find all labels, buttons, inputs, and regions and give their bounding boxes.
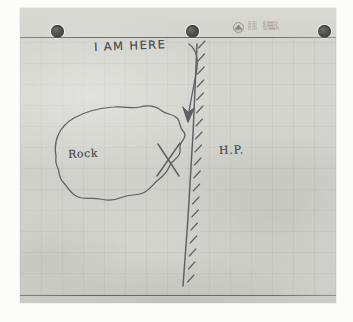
label-i-am-here: I AM HERE [94, 37, 167, 54]
graph-paper-grid [20, 38, 336, 295]
printed-code-column-b: 48 SHEETS 48 SHEETS 100 SHEETS [263, 23, 279, 32]
x-mark-stroke-2 [157, 143, 180, 176]
top-horizontal-rule [20, 37, 336, 38]
wall-hatching [188, 41, 206, 282]
printed-code: 22-144 [248, 29, 257, 32]
wall-line [183, 44, 197, 286]
photo-canvas: 22-131 22-142 22-144 48 SHEETS 48 SHEETS… [0, 0, 353, 322]
bottom-horizontal-rule [20, 295, 336, 296]
pointer-arrow-shaft [188, 44, 197, 118]
printed-code-column-a: 22-131 22-142 22-144 [248, 23, 257, 32]
x-mark-stroke-1 [158, 144, 179, 176]
pointer-arrow-head [183, 107, 194, 122]
pointer-arrow-head-fill [184, 108, 194, 122]
printed-code-columns: 22-131 22-142 22-144 48 SHEETS 48 SHEETS… [248, 23, 279, 32]
printed-header-block: 22-131 22-142 22-144 48 SHEETS 48 SHEETS… [233, 22, 279, 33]
paper-sheet: 22-131 22-142 22-144 48 SHEETS 48 SHEETS… [20, 8, 336, 303]
label-rock: Rock [68, 147, 99, 161]
label-hp: H.P. [219, 143, 244, 157]
printed-sheet-count: 100 SHEETS [263, 29, 279, 32]
emblem-logo-icon [233, 22, 244, 33]
